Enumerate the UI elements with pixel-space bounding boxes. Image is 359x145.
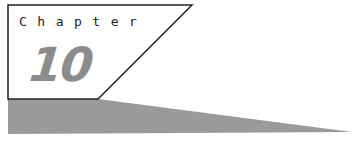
chapter-number: 10 [27,37,94,92]
chapter-label: Chapter [19,14,147,29]
gray-wedge-band [8,99,352,134]
